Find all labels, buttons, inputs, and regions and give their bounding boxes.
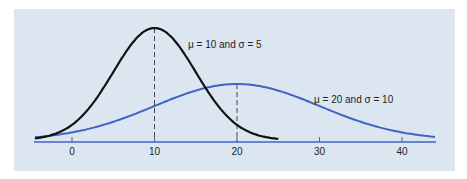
x-tick-label: 0 [69, 146, 75, 157]
x-tick-label: 10 [149, 146, 161, 157]
normal-distribution-chart: 010203040 μ = 10 and σ = 5 μ = 20 and σ … [0, 0, 467, 179]
series2-label: μ = 20 and σ = 10 [314, 94, 394, 105]
x-tick-label: 30 [314, 146, 326, 157]
x-tick-label: 40 [396, 146, 408, 157]
x-tick-label: 20 [231, 146, 243, 157]
series1-label: μ = 10 and σ = 5 [188, 39, 262, 50]
